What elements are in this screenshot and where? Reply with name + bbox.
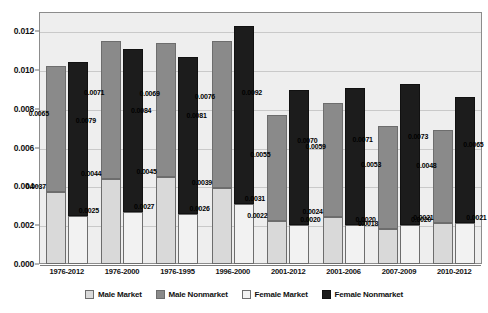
bar-female[interactable] <box>123 49 143 264</box>
legend-label: Female Market <box>255 290 308 299</box>
bar-female[interactable] <box>400 84 420 264</box>
bar-segment-female-market[interactable] <box>289 225 309 264</box>
value-label-female-market: 0.0025 <box>79 207 99 214</box>
bar-segment-male-nonmarket[interactable] <box>46 66 66 192</box>
value-label-male-nonmarket: 0.0065 <box>29 110 49 117</box>
bar-female[interactable] <box>234 26 254 264</box>
bar-segment-female-nonmarket[interactable] <box>123 49 143 212</box>
value-label-male-market: 0.0039 <box>192 179 212 186</box>
bar-segment-male-market[interactable] <box>212 188 232 264</box>
bar-female[interactable] <box>455 97 475 264</box>
bar-segment-male-market[interactable] <box>323 217 343 264</box>
bar-male[interactable] <box>101 41 121 264</box>
chart-legend: Male MarketMale NonmarketFemale MarketFe… <box>0 290 488 299</box>
legend-item[interactable]: Male Nonmarket <box>156 290 228 299</box>
bar-segment-male-market[interactable] <box>156 177 176 264</box>
bar-segment-female-market[interactable] <box>345 225 365 264</box>
legend-label: Male Nonmarket <box>169 290 228 299</box>
legend-swatch-icon <box>85 290 94 299</box>
value-label-female-market: 0.0021 <box>466 214 486 221</box>
bar-segment-female-nonmarket[interactable] <box>289 90 309 226</box>
value-label-male-nonmarket: 0.0048 <box>416 162 436 169</box>
value-label-male-market: 0.0021 <box>413 214 433 221</box>
bar-segment-female-market[interactable] <box>400 225 420 264</box>
bar-segment-female-nonmarket[interactable] <box>234 26 254 204</box>
x-axis-tick-label: 2001-2006 <box>326 267 361 276</box>
value-label-female-nonmarket: 0.0092 <box>242 89 262 96</box>
bar-segment-male-market[interactable] <box>378 229 398 264</box>
value-label-male-nonmarket: 0.0069 <box>139 90 159 97</box>
bar-segment-male-nonmarket[interactable] <box>212 41 232 188</box>
value-label-female-market: 0.0027 <box>134 203 154 210</box>
value-label-male-nonmarket: 0.0059 <box>306 143 326 150</box>
bar-female[interactable] <box>345 88 365 264</box>
value-label-male-nonmarket: 0.0076 <box>195 93 215 100</box>
bar-female[interactable] <box>289 90 309 264</box>
bar-segment-female-nonmarket[interactable] <box>455 97 475 223</box>
value-label-male-market: 0.0022 <box>247 212 267 219</box>
bar-male[interactable] <box>378 126 398 264</box>
legend-swatch-icon <box>156 290 165 299</box>
x-axis-tick-label: 1976-2012 <box>49 267 84 276</box>
bar-male[interactable] <box>433 130 453 264</box>
value-label-female-nonmarket: 0.0065 <box>463 141 483 148</box>
bar-segment-female-nonmarket[interactable] <box>345 88 365 226</box>
legend-label: Male Market <box>98 290 142 299</box>
bar-male[interactable] <box>212 41 232 264</box>
bar-segment-male-nonmarket[interactable] <box>323 103 343 217</box>
value-label-male-market: 0.0044 <box>81 170 101 177</box>
bar-segment-male-market[interactable] <box>267 221 287 264</box>
bar-segment-male-nonmarket[interactable] <box>267 115 287 222</box>
x-axis-tick-label: 2007-2009 <box>382 267 417 276</box>
legend-swatch-icon <box>242 290 251 299</box>
legend-swatch-icon <box>322 290 331 299</box>
bar-male[interactable] <box>267 115 287 264</box>
value-label-male-market: 0.0024 <box>303 208 323 215</box>
value-label-female-nonmarket: 0.0071 <box>353 136 373 143</box>
legend-item[interactable]: Female Market <box>242 290 308 299</box>
x-axis-tick-label: 2010-2012 <box>437 267 472 276</box>
bar-segment-female-nonmarket[interactable] <box>400 84 420 226</box>
value-label-female-market: 0.0020 <box>300 216 320 223</box>
value-label-female-nonmarket: 0.0079 <box>76 117 96 124</box>
value-label-female-market: 0.0031 <box>245 195 265 202</box>
value-label-female-nonmarket: 0.0073 <box>408 133 428 140</box>
value-label-male-market: 0.0018 <box>358 220 378 227</box>
bar-segment-male-nonmarket[interactable] <box>433 130 453 223</box>
value-label-male-market: 0.0037 <box>26 183 46 190</box>
bar-segment-female-nonmarket[interactable] <box>68 62 88 215</box>
bar-chart: 0.0000.0020.0040.0060.0080.0100.012 0.00… <box>0 0 488 313</box>
bar-female[interactable] <box>178 57 198 264</box>
bar-segment-male-market[interactable] <box>46 192 66 264</box>
bar-segment-female-market[interactable] <box>123 212 143 264</box>
bar-segment-male-market[interactable] <box>433 223 453 264</box>
x-axis-tick-label: 1976-1995 <box>160 267 195 276</box>
bar-segment-male-market[interactable] <box>101 179 121 264</box>
bar-male[interactable] <box>46 66 66 264</box>
bar-segment-female-market[interactable] <box>455 223 475 264</box>
bar-segment-male-nonmarket[interactable] <box>156 43 176 177</box>
value-label-male-nonmarket: 0.0053 <box>361 161 381 168</box>
bar-segment-female-market[interactable] <box>178 214 198 264</box>
value-label-male-nonmarket: 0.0055 <box>250 151 270 158</box>
value-label-female-nonmarket: 0.0081 <box>186 112 206 119</box>
legend-item[interactable]: Female Nonmarket <box>322 290 403 299</box>
legend-item[interactable]: Male Market <box>85 290 142 299</box>
bar-segment-male-nonmarket[interactable] <box>378 126 398 229</box>
bar-segment-female-market[interactable] <box>68 216 88 264</box>
legend-label: Female Nonmarket <box>335 290 403 299</box>
bar-male[interactable] <box>156 43 176 264</box>
value-label-male-nonmarket: 0.0071 <box>84 89 104 96</box>
bar-male[interactable] <box>323 103 343 264</box>
value-label-male-market: 0.0045 <box>136 168 156 175</box>
bar-segment-female-nonmarket[interactable] <box>178 57 198 214</box>
x-axis-tick-label: 1976-2000 <box>105 267 140 276</box>
x-axis-tick-label: 2001-2012 <box>271 267 306 276</box>
value-label-female-market: 0.0026 <box>189 205 209 212</box>
value-label-female-nonmarket: 0.0084 <box>131 107 151 114</box>
x-axis-tick-label: 1996-2000 <box>216 267 251 276</box>
bar-segment-male-nonmarket[interactable] <box>101 41 121 179</box>
